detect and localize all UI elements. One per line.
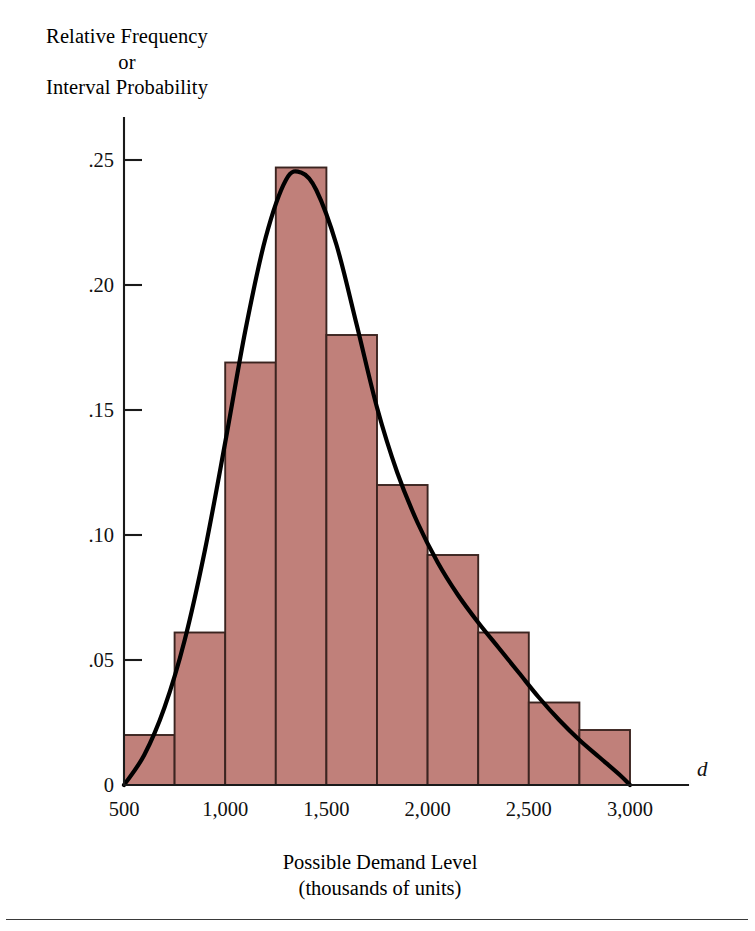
bars-group [124,168,630,786]
y-ticks-group: 0.05.10.15.20.25 [88,149,142,796]
x-axis-title: Possible Demand Level (thousands of unit… [150,849,610,901]
x-tick-label: 2,500 [506,798,552,820]
histogram-bar [326,335,377,785]
x-tick-label: 3,000 [607,798,653,820]
histogram-bar [276,168,327,786]
y-tick-label: .05 [88,649,114,671]
x-axis-title-line-2: (thousands of units) [150,875,610,901]
x-tick-label: 2,000 [405,798,451,820]
y-tick-label: .20 [88,274,114,296]
histogram-plot: 0.05.10.15.20.25 5001,0001,5002,0002,500… [0,0,755,931]
y-tick-label: 0 [104,774,114,796]
y-tick-label: .10 [88,524,114,546]
x-axis-variable-label: d [697,757,708,781]
x-tick-label: 500 [109,798,140,820]
y-tick-label: .25 [88,149,114,171]
y-tick-label: .15 [88,399,114,421]
x-tick-label: 1,000 [202,798,248,820]
figure-container: Relative Frequency or Interval Probabili… [0,0,755,931]
x-tick-label: 1,500 [303,798,349,820]
x-axis-title-line-1: Possible Demand Level [150,849,610,875]
x-ticks-group: 5001,0001,5002,0002,5003,000 [109,798,653,820]
footer-divider [6,919,748,920]
histogram-bar [225,363,276,786]
